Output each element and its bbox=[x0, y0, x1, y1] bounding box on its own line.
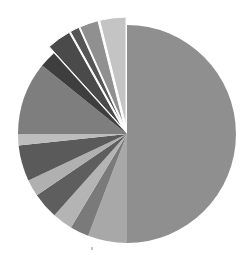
stray-mark bbox=[91, 247, 93, 250]
pie-slice-0 bbox=[127, 25, 236, 243]
pie-chart bbox=[0, 0, 251, 255]
